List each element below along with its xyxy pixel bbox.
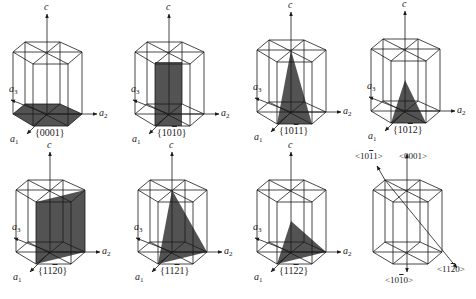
axis-label-c: c — [47, 140, 51, 150]
axis-label-c: c — [169, 140, 173, 150]
prism-p10-10 — [133, 14, 219, 134]
axis-label-a3: a3 — [12, 222, 21, 234]
plane-pyr3 — [158, 190, 207, 264]
axis-label-c: c — [288, 140, 292, 150]
axis-label-a3: a3 — [9, 84, 18, 96]
shaded-plane — [391, 80, 426, 123]
direction-label-10-11: <1011> — [355, 152, 383, 161]
prism-p0001 — [11, 14, 97, 134]
plane-pyr1 — [277, 50, 312, 124]
axis-label-a3: a3 — [367, 81, 376, 93]
axis-label-a1: a1 — [10, 134, 19, 146]
plane-label-p11-21: {1121} — [160, 266, 189, 276]
axis-label-a2: a2 — [99, 108, 108, 120]
axis-label-a2: a2 — [343, 106, 352, 118]
direction-label-0001: <0001> — [399, 152, 427, 161]
direction-arrows — [377, 154, 457, 272]
prism-p11-22 — [255, 152, 341, 272]
prism-p10-11 — [255, 12, 341, 132]
prism-dirs — [373, 154, 457, 272]
direction-label-10-10: <1010> — [385, 276, 413, 285]
axis-label-a1: a1 — [254, 272, 263, 284]
axis-label-a3: a3 — [253, 222, 262, 234]
plane-label-p10-10: {1010} — [157, 128, 187, 138]
plane-prism1 — [155, 62, 182, 126]
plane-prism2 — [36, 190, 85, 264]
crystal-diagram — [0, 0, 476, 299]
axis-label-a1: a1 — [132, 134, 141, 146]
axis-label-a2: a2 — [224, 246, 233, 258]
plane-label-p11-22: {1122} — [279, 266, 308, 276]
axis-label-a1: a1 — [13, 272, 22, 284]
direction-label-11-20: <1120> — [437, 265, 465, 274]
axis-label-a3: a3 — [253, 82, 262, 94]
shaded-plane — [277, 50, 312, 124]
axis-label-c: c — [166, 2, 170, 12]
axis-label-c: c — [288, 0, 292, 10]
axis-label-c: c — [44, 2, 48, 12]
axis-label-a1: a1 — [135, 272, 144, 284]
axis-label-c: c — [402, 0, 406, 9]
shaded-plane — [36, 190, 85, 264]
shaded-plane — [155, 62, 182, 126]
plane-label-p0001: {0001} — [35, 128, 65, 138]
shaded-plane — [158, 190, 207, 264]
plane-label-p10-12: {1012} — [393, 125, 423, 135]
plane-pyr2 — [391, 80, 426, 123]
plane-label-p11-20: {1120} — [38, 266, 67, 276]
axis-label-a3: a3 — [134, 222, 143, 234]
axis-label-a2: a2 — [457, 105, 466, 117]
axis-label-a2: a2 — [343, 246, 352, 258]
prism-p11-20 — [14, 152, 100, 272]
prism-p11-21 — [136, 152, 222, 272]
axis-label-a3: a3 — [131, 84, 140, 96]
plane-label-p10-11: {1011} — [279, 126, 308, 136]
axis-label-a1: a1 — [368, 131, 377, 143]
axis-label-a2: a2 — [221, 108, 230, 120]
axis-label-a2: a2 — [102, 246, 111, 258]
axis-label-a1: a1 — [254, 132, 263, 144]
prism-p10-12 — [369, 11, 455, 131]
